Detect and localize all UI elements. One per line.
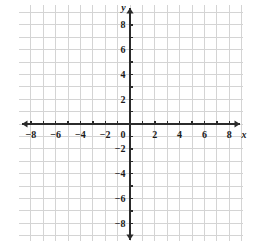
y-axis-arrow-up (126, 8, 133, 14)
y-tick-label: 8 (121, 19, 126, 30)
axis-lines (22, 8, 240, 240)
x-axis-name-label: x (241, 129, 247, 140)
grid-lines (19, 5, 243, 241)
x-tick-label: 8 (227, 129, 232, 140)
x-tick-label: −6 (50, 129, 61, 140)
y-axis-name-label: y (120, 2, 126, 13)
y-tick-label: −4 (115, 168, 126, 179)
x-tick-label: 2 (152, 129, 157, 140)
x-tick-label: −8 (25, 129, 36, 140)
y-tick-label: 2 (121, 94, 126, 105)
y-axis-arrow-down (126, 235, 133, 241)
coordinate-grid-svg: −8−6−4−224688642−2−4−6−80 xy (0, 0, 262, 250)
axis-name-labels: xy (120, 2, 246, 140)
x-axis-arrow-left (22, 120, 28, 127)
y-tick-label: −8 (115, 218, 126, 229)
x-tick-label: 4 (177, 129, 182, 140)
x-tick-label: 6 (202, 129, 207, 140)
y-tick-label: 6 (121, 44, 126, 55)
coordinate-plane-graph: −8−6−4−224688642−2−4−6−80 xy (0, 0, 262, 250)
x-axis-arrow-right (235, 120, 241, 127)
y-tick-label: 4 (121, 69, 126, 80)
origin-label: 0 (121, 129, 126, 140)
x-tick-label: −4 (75, 129, 86, 140)
y-tick-label: −2 (115, 143, 126, 154)
y-tick-label: −6 (115, 193, 126, 204)
x-tick-label: −2 (100, 129, 111, 140)
